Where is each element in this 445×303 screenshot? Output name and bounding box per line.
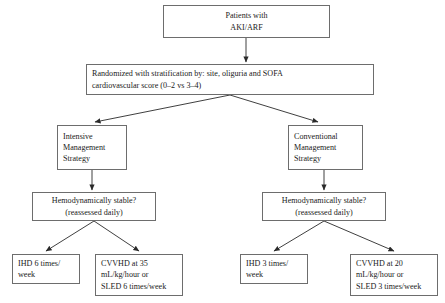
node-label-line: Management bbox=[294, 142, 336, 153]
node-label-line: Hemodynamically stable? bbox=[282, 195, 366, 206]
connector-conventional-check-to-ihd bbox=[274, 221, 324, 251]
node-intensive-strategy: IntensiveManagementStrategy bbox=[57, 125, 127, 170]
node-label-line: SLED 3 times/week bbox=[356, 281, 421, 292]
node-conventional-cvvhd: CVVHD at 20mL/kg/hour orSLED 3 times/wee… bbox=[350, 254, 438, 296]
connector-randomization-to-intensive bbox=[95, 95, 230, 122]
node-label-line: mL/kg/hour or bbox=[101, 269, 148, 280]
node-label-line: AKI/ARF bbox=[230, 22, 262, 33]
node-intensive-cvvhd: CVVHD at 35mL/kg/hour orSLED 6 times/wee… bbox=[95, 254, 183, 296]
connector-conventional-check-to-cvvhd bbox=[324, 221, 394, 251]
node-randomization: Randomized with stratification by: site,… bbox=[86, 64, 374, 95]
node-label-line: CVVHD at 20 bbox=[356, 258, 403, 269]
node-intensive-hemodynamic-check: Hemodynamically stable?(reassessed daily… bbox=[32, 192, 156, 221]
node-label-line: (reassessed daily) bbox=[295, 207, 352, 218]
connector-intensive-check-to-ihd bbox=[46, 221, 94, 251]
node-label-line: week bbox=[18, 269, 35, 280]
node-label-line: Strategy bbox=[294, 153, 321, 164]
node-label-line: IHD 6 times/ bbox=[18, 258, 60, 269]
node-label-line: IHD 3 times/ bbox=[246, 258, 288, 269]
node-label-line: SLED 6 times/week bbox=[101, 281, 166, 292]
node-label-line: week bbox=[246, 269, 263, 280]
node-label-line: Hemodynamically stable? bbox=[52, 195, 136, 206]
connector-randomization-to-conventional bbox=[230, 95, 318, 122]
node-label-line: Management bbox=[63, 142, 105, 153]
node-intensive-ihd: IHD 6 times/week bbox=[12, 254, 80, 284]
node-label-line: Randomized with stratification by: site,… bbox=[92, 68, 283, 79]
node-label-line: cardiovascular score (0–2 vs 3–4) bbox=[92, 80, 201, 91]
node-label-line: CVVHD at 35 bbox=[101, 258, 148, 269]
node-conventional-strategy: ConventionalManagementStrategy bbox=[288, 125, 363, 170]
node-conventional-hemodynamic-check: Hemodynamically stable?(reassessed daily… bbox=[262, 192, 386, 221]
node-label-line: Strategy bbox=[63, 153, 90, 164]
node-label-line: mL/kg/hour or bbox=[356, 269, 403, 280]
node-enrollment: Patients withAKI/ARF bbox=[163, 5, 330, 38]
node-label-line: (reassessed daily) bbox=[65, 207, 122, 218]
node-label-line: Intensive bbox=[63, 131, 93, 142]
node-label-line: Conventional bbox=[294, 131, 338, 142]
node-label-line: Patients with bbox=[225, 10, 267, 21]
connector-intensive-check-to-cvvhd bbox=[94, 221, 139, 251]
node-conventional-ihd: IHD 3 times/week bbox=[240, 254, 308, 284]
flowchart-diagram: Patients withAKI/ARFRandomized with stra… bbox=[0, 0, 445, 303]
